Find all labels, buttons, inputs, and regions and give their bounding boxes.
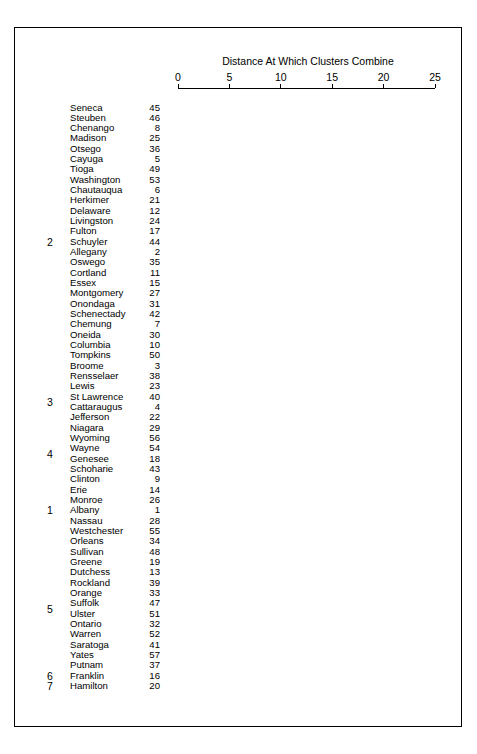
dendrogram-plot (0, 0, 477, 754)
dendrogram-figure: Distance At Which Clusters Combine 05101… (0, 0, 477, 754)
